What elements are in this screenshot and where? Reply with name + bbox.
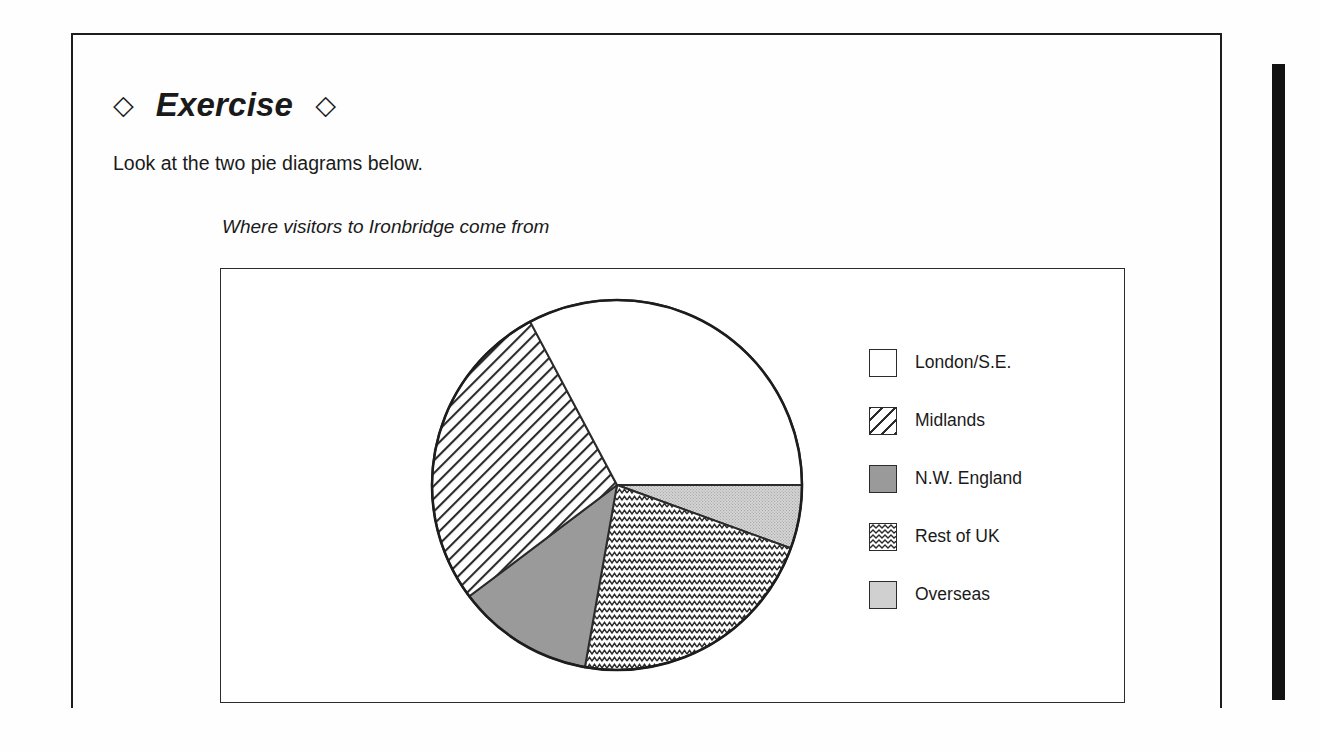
- legend-item-nw-england: N.W. England: [869, 465, 1022, 493]
- legend-label-overseas: Overseas: [915, 586, 990, 604]
- diamond-left-icon: ◇: [113, 91, 134, 118]
- legend-label-rest-of-uk: Rest of UK: [915, 528, 1000, 546]
- scanned-page-sheet: ◇ Exercise ◇ Look at the two pie diagram…: [0, 0, 1320, 752]
- diamond-right-icon: ◇: [315, 91, 336, 118]
- legend-item-overseas: Overseas: [869, 581, 1022, 609]
- legend-swatch-overseas: [869, 581, 897, 609]
- exercise-header: ◇ Exercise ◇: [113, 88, 336, 121]
- pie-chart: [417, 285, 817, 685]
- chart-caption: Where visitors to Ironbridge come from: [222, 216, 549, 238]
- legend-item-london-se: London/S.E.: [869, 349, 1022, 377]
- zigzag-pattern-icon: [870, 524, 896, 550]
- legend-label-nw-england: N.W. England: [915, 470, 1022, 488]
- exercise-heading: Exercise: [156, 88, 293, 121]
- legend-item-midlands: Midlands: [869, 407, 1022, 435]
- legend-swatch-london-se: [869, 349, 897, 377]
- pie-legend: London/S.E. Midlands N.W. England: [869, 349, 1022, 609]
- pie-chart-frame: London/S.E. Midlands N.W. England: [220, 268, 1125, 703]
- legend-label-london-se: London/S.E.: [915, 354, 1011, 372]
- legend-swatch-midlands: [869, 407, 897, 435]
- exercise-instruction-text: Look at the two pie diagrams below.: [113, 152, 423, 175]
- legend-label-midlands: Midlands: [915, 412, 985, 430]
- legend-swatch-rest-of-uk: [869, 523, 897, 551]
- legend-item-rest-of-uk: Rest of UK: [869, 523, 1022, 551]
- legend-swatch-nw-england: [869, 465, 897, 493]
- page-scan-edge-bar: [1272, 64, 1285, 700]
